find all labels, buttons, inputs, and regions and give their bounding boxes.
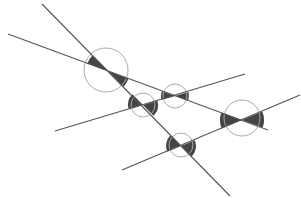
shaded-angle-wedges bbox=[87, 55, 264, 156]
angle-wedge-AB-1 bbox=[108, 71, 129, 87]
line-A bbox=[42, 4, 230, 196]
angle-wedge-AC-1 bbox=[143, 101, 158, 116]
angle-wedge-BD-1 bbox=[242, 111, 264, 127]
geometry-diagram bbox=[0, 0, 301, 198]
line-C bbox=[55, 74, 245, 131]
